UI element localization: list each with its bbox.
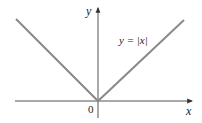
- origin-label: 0: [88, 103, 94, 115]
- graph-canvas: y x 0 y = |x|: [0, 0, 202, 123]
- function-label: y = |x|: [118, 34, 148, 46]
- abs-value-graph: y x 0 y = |x|: [0, 0, 202, 123]
- y-axis-label: y: [85, 4, 92, 18]
- abs-curve: [16, 19, 184, 101]
- x-axis-label: x: [185, 104, 192, 118]
